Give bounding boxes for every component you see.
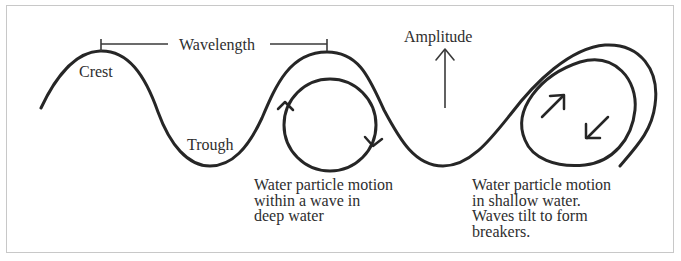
trough-label: Trough: [187, 137, 234, 152]
deep-water-orbit: [284, 79, 376, 171]
amplitude-label: Amplitude: [404, 29, 472, 44]
breaker-arrow-down-left-icon: [586, 117, 608, 138]
amplitude-arrow-icon: [436, 49, 454, 108]
crest-label: Crest: [79, 64, 113, 79]
breaker-orbit: [522, 60, 635, 166]
wavelength-label: Wavelength: [175, 37, 259, 52]
breaker-arrow-up-right-icon: [542, 95, 564, 117]
shallow-water-caption: Water particle motion in shallow water. …: [472, 177, 611, 239]
deep-water-caption: Water particle motion within a wave in d…: [254, 177, 393, 224]
